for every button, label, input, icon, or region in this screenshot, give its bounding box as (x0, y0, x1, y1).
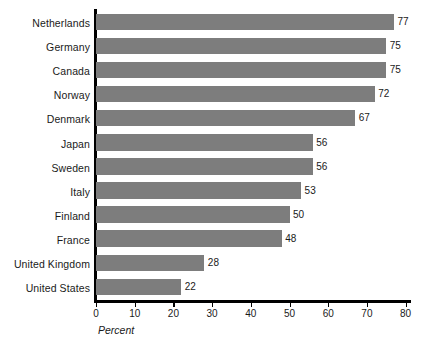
x-axis-tick (135, 302, 136, 307)
bar (96, 14, 394, 31)
bar-row: Japan56 (0, 132, 429, 156)
category-label: Denmark (0, 107, 90, 131)
x-axis-tick-label: 40 (236, 308, 266, 319)
x-axis-tick-label: 0 (81, 308, 111, 319)
bar (96, 158, 313, 175)
category-label: Netherlands (0, 11, 90, 35)
category-label: United States (0, 276, 90, 300)
bar-value-label: 75 (390, 61, 401, 78)
bar (96, 255, 204, 272)
x-axis-tick (367, 302, 368, 307)
bar-value-label: 28 (208, 254, 219, 271)
x-axis-tick-label: 50 (275, 308, 305, 319)
bar-value-label: 56 (316, 134, 327, 151)
bar-row: Germany75 (0, 35, 429, 59)
x-axis-tick (328, 302, 329, 307)
category-label: Germany (0, 35, 90, 59)
bar-row: Finland50 (0, 204, 429, 228)
bar-value-label: 56 (316, 158, 327, 175)
bar-row: Sweden56 (0, 156, 429, 180)
bar (96, 62, 386, 79)
x-axis-tick (212, 302, 213, 307)
x-axis-tick-label: 20 (158, 308, 188, 319)
bar-value-label: 53 (305, 182, 316, 199)
bar (96, 38, 386, 55)
x-axis-tick-label: 60 (313, 308, 343, 319)
category-label: United Kingdom (0, 252, 90, 276)
bar (96, 206, 290, 223)
bar-value-label: 72 (378, 85, 389, 102)
x-axis-tick-label: 70 (352, 308, 382, 319)
category-label: Italy (0, 180, 90, 204)
x-axis-title: Percent (98, 324, 134, 336)
bar-row: France48 (0, 228, 429, 252)
bar (96, 182, 301, 199)
bar-row: United Kingdom28 (0, 252, 429, 276)
bar (96, 86, 375, 103)
x-axis-tick-label: 80 (391, 308, 421, 319)
bar (96, 134, 313, 151)
x-axis-line (94, 300, 411, 303)
x-axis-tick (173, 302, 174, 307)
category-label: Sweden (0, 156, 90, 180)
category-label: Canada (0, 59, 90, 83)
plot-area: Netherlands77Germany75Canada75Norway72De… (0, 0, 429, 346)
bar-row: Netherlands77 (0, 11, 429, 35)
category-label: Finland (0, 204, 90, 228)
bar-value-label: 67 (359, 109, 370, 126)
x-axis-tick-label: 10 (120, 308, 150, 319)
bar-row: United States22 (0, 276, 429, 300)
bar-value-label: 48 (285, 230, 296, 247)
bar-row: Denmark67 (0, 107, 429, 131)
x-axis-tick (406, 302, 407, 307)
bar-value-label: 22 (185, 278, 196, 295)
bar-chart: Netherlands77Germany75Canada75Norway72De… (0, 0, 429, 346)
category-label: Japan (0, 132, 90, 156)
bar (96, 279, 181, 296)
bar-row: Norway72 (0, 83, 429, 107)
x-axis-tick (290, 302, 291, 307)
category-label: Norway (0, 83, 90, 107)
bar-row: Canada75 (0, 59, 429, 83)
bar (96, 230, 282, 247)
category-label: France (0, 228, 90, 252)
bar-value-label: 77 (397, 13, 408, 30)
bar (96, 110, 355, 127)
bar-value-label: 50 (293, 206, 304, 223)
x-axis-tick-label: 30 (197, 308, 227, 319)
bar-value-label: 75 (390, 37, 401, 54)
bar-row: Italy53 (0, 180, 429, 204)
x-axis-tick (251, 302, 252, 307)
x-axis-tick (96, 302, 97, 307)
